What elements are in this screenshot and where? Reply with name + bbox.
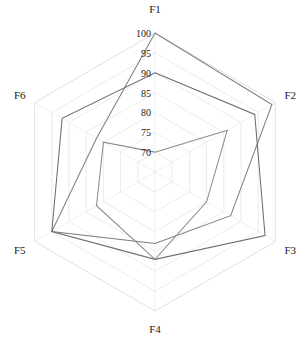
radial-tick-100: 100 <box>136 28 151 39</box>
axis-spoke-f6 <box>35 103 155 173</box>
axis-label-f3: F3 <box>284 244 296 256</box>
axis-spoke-f3 <box>155 172 275 242</box>
radial-tick-85: 85 <box>141 88 151 99</box>
radar-chart-container: F1 F2 F3 F4 F5 F6 100 95 90 85 80 75 70 <box>0 0 306 340</box>
axis-label-f5: F5 <box>14 244 26 256</box>
axis-label-f1: F1 <box>149 3 161 15</box>
radial-tick-90: 90 <box>141 68 151 79</box>
series-polygon-2 <box>52 73 265 260</box>
axis-spoke-f5 <box>35 172 155 242</box>
axis-label-f6: F6 <box>14 89 26 101</box>
series-polygon-1 <box>52 33 272 243</box>
radial-tick-95: 95 <box>141 48 151 59</box>
axis-spokes-group <box>35 33 276 311</box>
radial-tick-75: 75 <box>141 127 151 138</box>
data-series-group <box>52 33 272 259</box>
radar-chart-svg: F1 F2 F3 F4 F5 F6 100 95 90 85 80 75 70 <box>0 0 306 340</box>
radial-tick-80: 80 <box>141 107 151 118</box>
axis-spoke-f2 <box>155 103 275 173</box>
axis-label-f4: F4 <box>149 323 161 335</box>
axis-label-f2: F2 <box>284 89 296 101</box>
radial-tick-70: 70 <box>141 147 151 158</box>
